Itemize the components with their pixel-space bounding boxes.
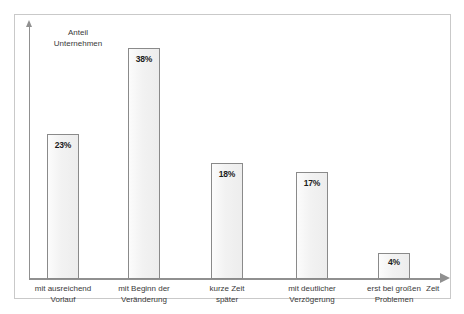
bar-5: 4% (378, 253, 410, 279)
bar-3-value-label: 18% (212, 169, 242, 179)
x-axis-arrow-icon (440, 273, 450, 283)
y-axis-line (29, 26, 30, 279)
bar-1: 23% (47, 134, 79, 279)
bar-4: 17% (296, 172, 328, 279)
x-tick-label-5: erst bei großen Problemen (344, 284, 444, 305)
bar-3: 18% (211, 163, 243, 279)
bar-4-value-label: 17% (297, 178, 327, 188)
bar-2-value-label: 38% (129, 54, 159, 64)
bar-5-value-label: 4% (379, 257, 409, 267)
bar-1-value-label: 23% (48, 140, 78, 150)
bar-chart: Anteil Unternehmen Zeit 23% mit ausreich… (0, 0, 464, 314)
bar-2: 38% (128, 48, 160, 279)
y-axis-label: Anteil Unternehmen (33, 28, 123, 49)
